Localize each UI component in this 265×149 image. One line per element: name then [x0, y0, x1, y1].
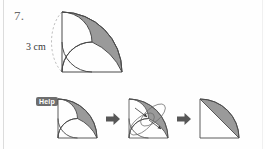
right-margin-rule — [262, 0, 263, 149]
problem-number: 7. — [14, 8, 24, 24]
right-arrow-icon-2 — [176, 111, 192, 127]
arrow-glyph-2 — [177, 113, 191, 125]
main-figure — [40, 6, 155, 96]
left-margin-rule — [3, 0, 4, 149]
right-arrow-icon — [105, 111, 121, 127]
step-1-original[interactable] — [55, 96, 100, 141]
step-2-rearrange[interactable] — [126, 96, 171, 141]
arrow-glyph — [106, 113, 120, 125]
solution-step-sequence — [55, 96, 242, 141]
step-3-result[interactable] — [197, 96, 242, 141]
step3-segment-shade — [200, 99, 239, 138]
worksheet-problem-panel: 7. 3 cm Help — [0, 0, 265, 149]
dimension-dashed-arc — [52, 12, 63, 72]
